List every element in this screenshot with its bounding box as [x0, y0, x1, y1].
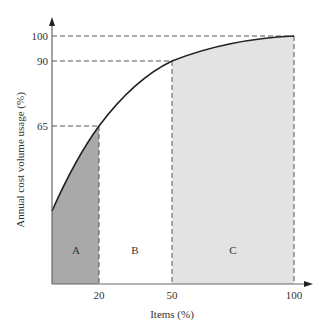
region-a-label: A [72, 244, 80, 256]
region-b-label: B [131, 244, 138, 256]
x-tick-100: 100 [286, 289, 303, 301]
y-tick-100: 100 [32, 30, 49, 42]
x-tick-50: 50 [167, 289, 179, 301]
x-axis-arrow-icon [304, 281, 313, 287]
abc-analysis-chart: 100 90 65 20 50 100 Items (%) Annual cos… [0, 0, 325, 327]
y-tick-65: 65 [37, 120, 49, 132]
y-axis-label: Annual cost volume usage (%) [14, 92, 27, 228]
region-c-label: C [229, 244, 236, 256]
region-a-fill [52, 126, 99, 284]
x-tick-20: 20 [94, 289, 106, 301]
y-axis-arrow-icon [49, 17, 55, 26]
x-axis-label: Items (%) [150, 308, 194, 321]
y-tick-90: 90 [37, 55, 49, 67]
